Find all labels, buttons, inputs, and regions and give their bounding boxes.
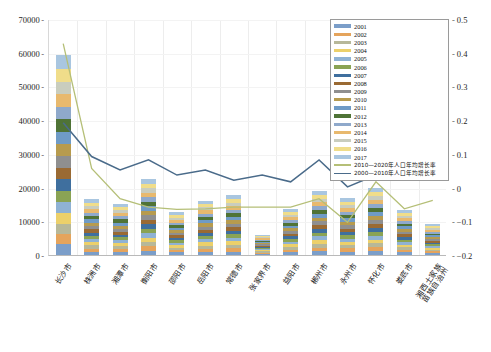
- legend-label: 2001: [354, 23, 367, 30]
- x-category-label: 岳阳市: [196, 262, 216, 286]
- legend-swatch-line: [334, 173, 351, 175]
- legend-item: 2017: [334, 153, 445, 161]
- y-tick-label-right: 0: [452, 184, 461, 194]
- legend-item: 2003: [334, 38, 445, 46]
- legend-swatch: [334, 114, 351, 117]
- legend-label: 2010: [354, 96, 367, 103]
- x-category-label: 郴州市: [310, 262, 330, 286]
- legend-swatch: [334, 74, 351, 77]
- chart-legend: 2001200220032004200520062007200820092010…: [330, 19, 449, 181]
- legend-swatch: [334, 155, 351, 158]
- legend-label: 2005: [354, 55, 367, 62]
- legend-swatch: [334, 82, 351, 85]
- legend-swatch: [334, 49, 351, 52]
- chart-root: 010000200003000040000500006000070000 −0.…: [0, 0, 491, 352]
- legend-item-line: 2000—2010年人口年均增长率: [334, 169, 445, 177]
- y-tick-label-right: 0.2: [452, 116, 467, 126]
- legend-item: 2001: [334, 22, 445, 30]
- legend-label: 2015: [354, 137, 367, 144]
- legend-swatch: [334, 139, 351, 142]
- x-category-label: 长沙市: [54, 262, 74, 286]
- legend-swatch: [334, 24, 351, 27]
- x-category-label: 益阳市: [281, 262, 301, 286]
- legend-label: 2016: [354, 145, 367, 152]
- legend-label: 2014: [354, 129, 367, 136]
- x-category-label: 衡阳市: [139, 262, 159, 286]
- x-category-label: 常德市: [224, 262, 244, 286]
- legend-swatch: [334, 106, 351, 109]
- x-category-label: 怀化市: [367, 262, 387, 286]
- legend-label: 2003: [354, 39, 367, 46]
- y-tick-label-left: 30000: [0, 150, 44, 160]
- y-tick-label-left: 10000: [0, 217, 44, 227]
- legend-label: 2013: [354, 121, 367, 128]
- legend-item: 2008: [334, 79, 445, 87]
- legend-label: 2010—2020年人口年均增长率: [354, 161, 436, 169]
- legend-label: 2006: [354, 64, 367, 71]
- y-tick-label-right: 0.1: [452, 150, 467, 160]
- legend-label: 2012: [354, 113, 367, 120]
- legend-item: 2004: [334, 47, 445, 55]
- y-tick-label-left: 0: [0, 251, 44, 261]
- legend-item: 2002: [334, 30, 445, 38]
- legend-item: 2013: [334, 120, 445, 128]
- legend-label: 2008: [354, 80, 367, 87]
- legend-item: 2015: [334, 137, 445, 145]
- x-category-label: 湘潭市: [111, 262, 131, 286]
- legend-swatch: [334, 41, 351, 44]
- legend-label: 2011: [354, 104, 367, 111]
- x-category-label: 湘西土家族 苗族自治州: [414, 262, 449, 304]
- y-tick-label-right: 0.4: [452, 49, 467, 59]
- y-tick-label-right: 0.3: [452, 82, 467, 92]
- legend-item: 2012: [334, 112, 445, 120]
- legend-label: 2017: [354, 154, 367, 161]
- x-category-label: 邵阳市: [168, 262, 188, 286]
- y-tick-label-right: 0.5: [452, 15, 467, 25]
- legend-item: 2010: [334, 96, 445, 104]
- x-category-label: 张家界市: [248, 262, 272, 293]
- legend-item: 2007: [334, 71, 445, 79]
- legend-item: 2009: [334, 88, 445, 96]
- legend-label: 2004: [354, 47, 367, 54]
- y-tick-label-left: 70000: [0, 15, 44, 25]
- legend-item-line: 2010—2020年人口年均增长率: [334, 161, 445, 169]
- y-tick-label-right: −0.1: [452, 217, 472, 227]
- legend-swatch: [334, 131, 351, 134]
- x-category-label: 娄底市: [395, 262, 415, 286]
- legend-swatch: [334, 147, 351, 150]
- legend-swatch: [334, 123, 351, 126]
- y-tick-label-left: 50000: [0, 82, 44, 92]
- legend-item: 2016: [334, 145, 445, 153]
- legend-swatch-line: [334, 164, 351, 166]
- x-category-label: 株洲市: [82, 262, 102, 286]
- legend-label: 2007: [354, 72, 367, 79]
- y-tick-label-left: 20000: [0, 184, 44, 194]
- x-category-label: 永州市: [338, 262, 358, 286]
- legend-swatch: [334, 33, 351, 36]
- legend-label: 2009: [354, 88, 367, 95]
- legend-item: 2014: [334, 128, 445, 136]
- legend-label: 2002: [354, 31, 367, 38]
- legend-swatch: [334, 57, 351, 60]
- y-tick-label-left: 40000: [0, 116, 44, 126]
- legend-item: 2006: [334, 63, 445, 71]
- legend-swatch: [334, 65, 351, 68]
- legend-swatch: [334, 98, 351, 101]
- legend-label: 2000—2010年人口年均增长率: [354, 169, 436, 177]
- y-tick-label-left: 60000: [0, 49, 44, 59]
- y-tick-label-right: −0.2: [452, 251, 472, 261]
- legend-item: 2011: [334, 104, 445, 112]
- legend-swatch: [334, 90, 351, 93]
- legend-item: 2005: [334, 55, 445, 63]
